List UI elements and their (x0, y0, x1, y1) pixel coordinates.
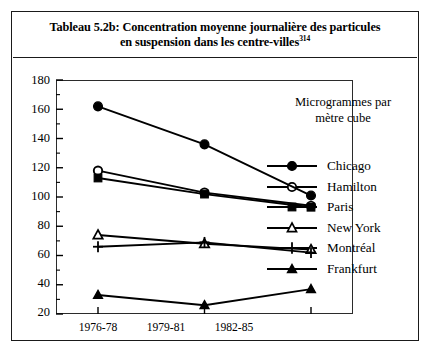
plot-svg (0, 0, 436, 356)
series-frankfurt (94, 285, 316, 309)
series-paris (94, 174, 315, 211)
figure-container: Tableau 5.2b: Concentration moyenne jour… (0, 0, 436, 356)
data-series-layer (93, 102, 316, 309)
series-chicago (94, 102, 316, 200)
axis-ticks (56, 80, 311, 314)
